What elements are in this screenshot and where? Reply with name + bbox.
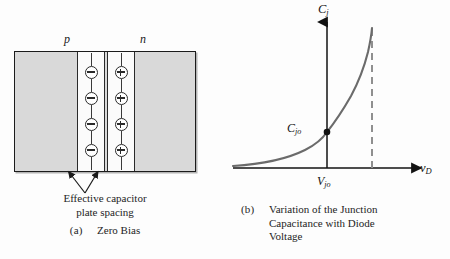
region-label-p: p <box>64 32 70 47</box>
cjo-point-marker <box>324 129 331 136</box>
positive-charge-icon <box>115 118 128 131</box>
dash-segment <box>91 105 92 118</box>
panel-b-caption-line-2: Capacitance with Diode <box>269 217 441 231</box>
dash-segment <box>121 79 122 92</box>
x-axis-label: vD <box>420 161 432 176</box>
positive-charge-column <box>113 52 129 171</box>
dash-segment <box>91 157 92 170</box>
dash-segment <box>121 131 122 144</box>
annotation-line-1: Effective capacitor <box>12 192 198 206</box>
dash-segment <box>91 131 92 144</box>
panel-b-caption-line-3: Voltage <box>269 230 441 244</box>
capacitance-curve-plot <box>225 0 450 205</box>
dash-segment <box>121 157 122 170</box>
pn-junction-block <box>14 51 196 172</box>
negative-charge-icon <box>85 92 98 105</box>
dash-segment <box>121 105 122 118</box>
capacitance-curve <box>233 28 372 166</box>
vjo-label: Vjo <box>317 174 331 189</box>
panel-b-caption-line-1: Variation of the Junction <box>269 203 441 217</box>
dash-segment <box>91 79 92 92</box>
negative-charge-column <box>83 52 99 171</box>
figure-page: p n <box>0 0 450 259</box>
region-label-n: n <box>140 32 146 47</box>
positive-charge-icon <box>115 92 128 105</box>
panel-a-letter: (a) <box>70 224 83 236</box>
dash-segment <box>121 53 122 66</box>
dash-segment <box>91 53 92 66</box>
y-axis-label: Cj <box>318 2 329 17</box>
effective-capacitor-annotation: Effective capacitor plate spacing <box>12 192 198 219</box>
panel-a-caption: (a) Zero Bias <box>12 224 198 238</box>
annotation-line-2: plate spacing <box>12 206 198 220</box>
negative-charge-icon <box>85 118 98 131</box>
cjo-label: Cjo <box>287 121 301 136</box>
panel-b-letter: (b) <box>241 203 269 217</box>
panel-b-junction-capacitance-chart: Cj vD Cjo Vjo (b) Variation of the Junct… <box>225 0 450 259</box>
panel-a-zero-bias: p n <box>0 0 225 259</box>
panel-a-title: Zero Bias <box>97 224 140 236</box>
positive-charge-icon <box>115 144 128 157</box>
negative-charge-icon <box>85 66 98 79</box>
positive-charge-icon <box>115 66 128 79</box>
panel-b-caption: (b) Variation of the Junction Capacitanc… <box>241 203 441 244</box>
negative-charge-icon <box>85 144 98 157</box>
